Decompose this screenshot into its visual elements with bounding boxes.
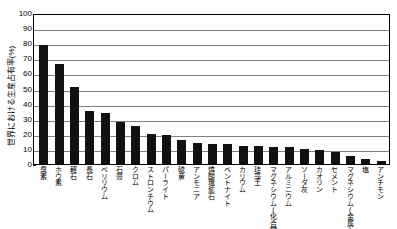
x-axis-label-slot: 塩 [357,166,372,229]
y-axis-tick-label: 20 [12,131,32,139]
plot-area [33,14,390,165]
x-axis-label-slot: 燐酸塩鉱石 [204,166,219,229]
bar [131,126,140,164]
x-axis-label-slot: 臭素 [35,166,50,229]
bar-slot [374,15,389,164]
bar [162,135,171,164]
bar [55,64,64,164]
x-axis-tick-label: カオリン [315,166,323,193]
x-axis-tick-label: ソーダ灰 [300,166,308,193]
y-axis-tick-group: 0102030405060708090100 [12,10,32,170]
x-axis-label-group: 臭素ホウ素軽石長石ベリリウム石膏クロムストロンチウムパーライト硫黄アンモニア燐酸… [33,166,390,229]
bar [269,147,278,164]
bar-slot [113,15,128,164]
bar-slot [36,15,51,164]
bar [39,45,48,164]
bar [193,143,202,164]
x-axis-label-slot: ベリリウム [96,166,111,229]
x-axis-tick-label: アルミニウム [284,166,292,206]
bar-slot [97,15,112,164]
x-axis-tick-label: パーライト [161,166,169,200]
x-axis-tick-label: 石膏 [115,166,123,179]
bar-slot [205,15,220,164]
x-axis-label-slot: ホウ素 [50,166,65,229]
x-axis-label-slot: セメント [327,166,342,229]
x-axis-tick-label: セメント [330,166,338,193]
x-axis-label-slot: カリウム [234,166,249,229]
bar [346,156,355,164]
x-axis-label-slot: 長石 [81,166,96,229]
x-axis-label-slot: アンモニア [188,166,203,229]
x-axis-label-slot: 珪藻土 [250,166,265,229]
y-axis-tick-label: 80 [12,40,32,48]
bar [361,159,370,164]
bar-slot [51,15,66,164]
x-axis-tick-label: 臭素 [39,166,47,179]
x-axis-tick-label: ホウ素 [54,166,62,186]
x-axis-label-slot: アルミニウム [281,166,296,229]
bar [331,152,340,164]
y-axis-tick-label: 60 [12,70,32,78]
x-axis-tick-label: ストロンチウム [146,166,154,213]
bar [285,147,294,164]
bar [300,149,309,164]
x-axis-label-slot: ストロンチウム [142,166,157,229]
x-axis-tick-label: 硫黄 [177,166,185,179]
bar [315,150,324,164]
x-axis-tick-label: マグネシウム(化合物) [269,166,277,229]
y-axis-tick-label: 10 [12,146,32,154]
bar [147,134,156,164]
bar-chart: 世界における生産占有率(%) 0102030405060708090100 臭素… [0,0,397,229]
bar-slot [312,15,327,164]
x-axis-label-slot: クロム [127,166,142,229]
bar-slot [189,15,204,164]
bar [85,111,94,164]
bar-slot [143,15,158,164]
bar-slot [235,15,250,164]
bar-slot [251,15,266,164]
bar [101,113,110,164]
y-axis-tick-label: 0 [12,161,32,169]
x-axis-tick-label: アンモニア [192,166,200,200]
bar-slot [128,15,143,164]
x-axis-label-slot: カオリン [311,166,326,229]
x-axis-tick-label: アンチモン [376,166,384,200]
bar [177,140,186,164]
bar-slot [266,15,281,164]
x-axis-tick-label: 長石 [85,166,93,179]
x-axis-label-slot: アンチモン [373,166,388,229]
x-axis-label-slot: 軽石 [66,166,81,229]
bar [208,144,217,164]
x-axis-tick-label: マグネシウム(金属) [346,166,354,229]
y-axis-tick-label: 50 [12,86,32,94]
x-axis-label-slot: 硫黄 [173,166,188,229]
bar [239,146,248,164]
bar-slot [82,15,97,164]
y-axis-tick-label: 30 [12,116,32,124]
y-axis-tick-label: 40 [12,101,32,109]
x-axis-label-slot: ベントナイト [219,166,234,229]
y-axis-tick-label: 100 [12,10,32,18]
bar-slot [67,15,82,164]
y-axis-tick-label: 90 [12,25,32,33]
x-axis-tick-label: 燐酸塩鉱石 [207,166,215,200]
bar [223,144,232,164]
bar [377,161,386,164]
x-axis-tick-label: 塩 [361,166,369,173]
x-axis-label-slot: マグネシウム(金属) [342,166,357,229]
bar-slot [297,15,312,164]
bar-slot [282,15,297,164]
bar-slot [174,15,189,164]
x-axis-tick-label: 軽石 [69,166,77,179]
bars-group [34,15,389,164]
bar [116,122,125,164]
bar [254,146,263,164]
x-axis-tick-label: ベントナイト [223,166,231,206]
bar-slot [159,15,174,164]
x-axis-label-slot: ソーダ灰 [296,166,311,229]
bar-slot [358,15,373,164]
bar-slot [343,15,358,164]
x-axis-tick-label: ベリリウム [100,166,108,200]
x-axis-label-slot: 石膏 [112,166,127,229]
x-axis-tick-label: カリウム [238,166,246,193]
